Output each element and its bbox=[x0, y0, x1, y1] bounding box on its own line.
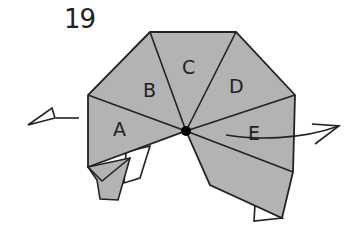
segment-label-a: A bbox=[113, 118, 126, 140]
pivot-dot bbox=[181, 126, 191, 136]
segment-label-b: B bbox=[143, 79, 156, 101]
origami-diagram: A B C D E bbox=[0, 0, 351, 228]
segment-label-e: E bbox=[248, 122, 260, 144]
segment-label-d: D bbox=[229, 75, 244, 97]
segment-label-c: C bbox=[182, 56, 195, 78]
left-arrow-icon bbox=[28, 108, 79, 125]
